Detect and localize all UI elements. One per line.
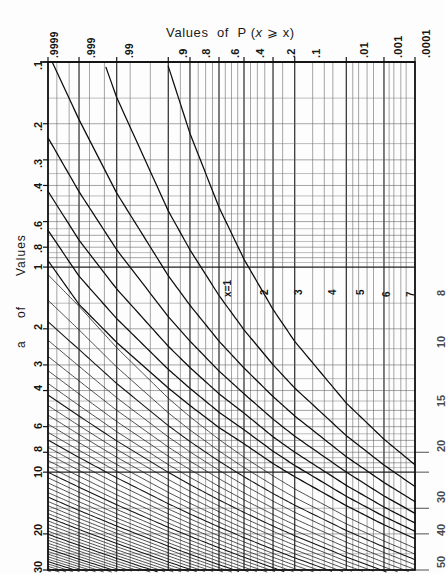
left-tick-label-12: 10 <box>32 466 44 478</box>
top-tick-label-4: .8 <box>200 48 212 58</box>
curve-label-7: 7 <box>405 290 416 298</box>
poisson-curve-47 <box>48 554 103 572</box>
title-variable: x <box>256 25 263 40</box>
left-tick-label-14: 30 <box>32 561 44 573</box>
top-tick-label-1: .999 <box>86 37 97 58</box>
left-tick-label-4: .6 <box>32 221 44 230</box>
poisson-curve-19 <box>48 432 343 571</box>
curve-label-2: 2 <box>259 288 270 296</box>
title-relation: ⩾ <box>263 25 283 40</box>
page-title: Values of P (x ⩾ x) <box>0 10 444 55</box>
poisson-curve-46 <box>48 552 111 572</box>
y-axis-label-values: Values <box>14 234 28 276</box>
poisson-curve-23 <box>48 460 302 571</box>
poisson-curve-18 <box>48 424 352 571</box>
poisson-curve-3 <box>52 63 415 502</box>
curve-label-3: 3 <box>293 288 304 296</box>
poisson-curve-48 <box>48 557 95 572</box>
right-tick-label-6: 50 <box>435 556 447 568</box>
poisson-curve-45 <box>48 549 117 571</box>
top-tick-label-2: .99 <box>124 43 135 58</box>
top-tick-label-5: .6 <box>229 48 241 58</box>
left-tick-label-6: 1 <box>32 264 44 270</box>
poisson-curve-41 <box>48 537 150 572</box>
poisson-curve-33 <box>48 510 213 572</box>
curve-label-x1: x=1 <box>222 279 233 298</box>
title-argument: x <box>283 25 290 40</box>
left-tick-label-1: .2 <box>32 122 44 131</box>
y-axis-label-of: of <box>14 306 28 318</box>
poisson-curve-49 <box>48 559 87 571</box>
poisson-curve-27 <box>48 483 267 572</box>
curve-lines <box>48 63 415 572</box>
poisson-curve-11 <box>48 340 415 565</box>
grid-lines <box>48 62 415 570</box>
left-tick-label-0: .1 <box>32 61 44 70</box>
poisson-curve-9 <box>48 300 415 554</box>
top-tick-label-9: .01 <box>358 42 370 58</box>
poisson-curve-31 <box>48 501 232 571</box>
poisson-curve-7 <box>48 261 415 539</box>
left-tick-label-10: 6 <box>32 423 44 429</box>
top-tick-label-7: .2 <box>285 48 297 58</box>
poisson-curve-35 <box>48 517 196 571</box>
top-tick-label-3: .9 <box>177 48 189 58</box>
left-tick-label-13: 20 <box>32 524 44 536</box>
top-tick-label-10: .001 <box>392 35 404 58</box>
curve-label-6: 6 <box>381 290 392 298</box>
poisson-curve-17 <box>48 415 362 571</box>
poisson-curve-52 <box>48 566 66 571</box>
left-tick-label-2: .3 <box>32 159 44 168</box>
poisson-curve-24 <box>48 467 293 572</box>
right-tick-label-4: 30 <box>435 491 447 503</box>
top-tick-label-0: .9999 <box>49 31 60 58</box>
left-tick-label-8: 3 <box>32 361 44 367</box>
top-tick-label-11: .0001 <box>420 29 432 58</box>
poisson-curve-28 <box>48 488 256 572</box>
poisson-curve-5 <box>48 191 415 523</box>
right-tick-label-2: 15 <box>435 395 447 407</box>
poisson-curve-43 <box>48 543 131 571</box>
poisson-curve-16 <box>48 406 373 572</box>
poisson-curve-4 <box>48 138 415 514</box>
poisson-curve-34 <box>48 514 204 572</box>
poisson-curve-36 <box>48 521 188 572</box>
poisson-curve-x1 <box>168 66 415 464</box>
poisson-curve-25 <box>48 472 284 571</box>
y-axis-label-a: a <box>14 340 28 348</box>
poisson-curve-22 <box>48 454 313 572</box>
poisson-curve-39 <box>48 531 165 572</box>
right-tick-label-3: 20 <box>435 440 447 452</box>
poisson-curve-40 <box>48 534 157 572</box>
poisson-curve-50 <box>48 562 79 572</box>
curve-label-5: 5 <box>355 288 366 296</box>
poisson-curve-2 <box>106 67 415 486</box>
poisson-curve-14 <box>48 383 397 571</box>
poisson-curve-13 <box>48 371 408 572</box>
plot-frame <box>40 57 429 570</box>
left-tick-label-9: 4 <box>32 385 44 391</box>
poisson-curve-29 <box>48 493 248 572</box>
left-tick-label-5: .8 <box>32 244 44 253</box>
poisson-curve-51 <box>48 564 72 572</box>
title-prefix: Values of P ( <box>166 25 255 40</box>
right-tick-label-1: 10 <box>435 336 447 348</box>
poisson-curve-26 <box>48 478 275 572</box>
poisson-curve-53 <box>48 569 59 572</box>
title-suffix: ) <box>290 25 295 40</box>
poisson-curve-44 <box>48 546 124 571</box>
poisson-curve-10 <box>48 322 415 560</box>
poisson-curve-54 <box>48 571 50 572</box>
poisson-curve-21 <box>48 447 321 571</box>
left-tick-label-11: 8 <box>32 446 44 452</box>
poisson-curve-15 <box>48 395 386 572</box>
plot-border <box>48 62 415 570</box>
poisson-curve-42 <box>48 540 139 571</box>
left-tick-label-7: 2 <box>32 324 44 330</box>
top-tick-label-8: .1 <box>310 48 322 58</box>
top-tick-label-6: .4 <box>254 48 266 58</box>
curve-label-4: 4 <box>327 288 338 296</box>
poisson-curve-8 <box>48 275 415 548</box>
poisson-curve-6 <box>48 230 415 531</box>
